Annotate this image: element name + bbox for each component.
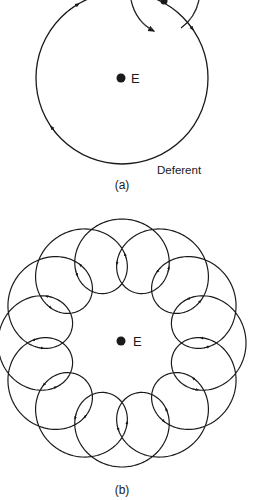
panel-a: E Deferent (a) bbox=[36, 0, 208, 192]
arrow-icon bbox=[82, 415, 86, 419]
arrow-icon bbox=[157, 268, 161, 273]
earth-dot bbox=[117, 74, 126, 83]
arrow-icon bbox=[197, 300, 201, 304]
deferent-direction-arrows bbox=[51, 4, 194, 136]
epicycle-arc-left bbox=[131, 0, 154, 31]
earth-label: E bbox=[131, 71, 140, 86]
arrow-icon bbox=[43, 381, 47, 385]
epicycle-arc-right-motion bbox=[187, 4, 198, 22]
arrow-icon bbox=[47, 305, 52, 309]
arrow-icon bbox=[160, 418, 164, 422]
arrow-icon bbox=[51, 126, 58, 135]
epicycle-arc-right bbox=[181, 0, 199, 28]
earth-label: E bbox=[133, 334, 142, 349]
panel-b-caption: (b) bbox=[115, 483, 130, 497]
deferent-label: Deferent bbox=[157, 164, 202, 176]
epicycle-diagram: E Deferent (a) E (b) bbox=[0, 0, 258, 500]
panel-a-caption: (a) bbox=[115, 178, 130, 192]
earth-dot bbox=[117, 337, 126, 346]
panel-b: E (b) bbox=[0, 219, 246, 497]
arrow-icon bbox=[69, 4, 79, 11]
arrow-icon bbox=[79, 264, 83, 268]
arrow-icon bbox=[192, 378, 197, 382]
